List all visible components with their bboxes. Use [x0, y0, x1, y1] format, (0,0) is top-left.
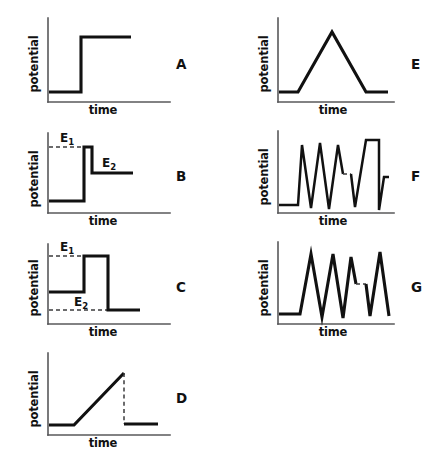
panel-D-xlabel: time: [89, 436, 118, 450]
panel-C-trace: [49, 256, 140, 310]
panel-G-trace-part1: [279, 254, 356, 318]
panel-letter-B: B: [176, 170, 186, 184]
panel-B-ylabel: potential: [27, 151, 41, 208]
panel-letter-F: F: [411, 170, 420, 184]
panel-E-ylabel: potential: [257, 36, 271, 93]
panel-D-ramp-trace: [49, 373, 124, 425]
panel-F-xlabel: time: [319, 214, 348, 228]
panel-C-e1-label: E1: [60, 240, 74, 256]
panel-E-trace: [279, 32, 388, 92]
waveform-figure: potential time A E1 E2 potential time B: [0, 0, 434, 455]
panel-letter-D: D: [176, 392, 187, 406]
panel-E-xlabel: time: [319, 103, 348, 117]
panel-D: potential time: [18, 347, 178, 447]
panel-G-trace-part2: [366, 252, 389, 316]
panel-F-ylabel: potential: [257, 149, 271, 206]
panel-B-trace: [49, 147, 133, 201]
panel-letter-A: A: [176, 58, 186, 72]
panel-G-xlabel: time: [319, 325, 348, 339]
panel-F-axes: [278, 131, 394, 213]
panel-A-xlabel: time: [89, 103, 118, 117]
panel-B-e1-label: E1: [60, 131, 74, 147]
panel-B-xlabel: time: [89, 214, 118, 228]
panel-B-e2-label: E2: [102, 156, 116, 172]
panel-C-e2-label: E2: [74, 295, 88, 311]
panel-C-xlabel: time: [89, 325, 118, 339]
panel-A-trace: [49, 37, 131, 92]
panel-C-ylabel: potential: [27, 260, 41, 317]
panel-G: potential time: [248, 236, 408, 336]
panel-A-axes: [48, 18, 170, 102]
panel-F: potential time: [248, 125, 408, 225]
panel-E-axes: [278, 18, 394, 102]
panel-D-ylabel: potential: [27, 371, 41, 428]
panel-F-trace-part1: [279, 143, 343, 209]
panel-A-ylabel: potential: [27, 36, 41, 93]
panel-F-trace-part2: [351, 140, 389, 210]
panel-C: E1 E2 potential time: [18, 236, 178, 336]
panel-letter-G: G: [411, 281, 422, 295]
panel-B: E1 E2 potential time: [18, 125, 178, 225]
panel-A: potential time: [18, 14, 178, 114]
panel-G-ylabel: potential: [257, 260, 271, 317]
panel-letter-E: E: [411, 58, 420, 72]
panel-E: potential time: [248, 14, 408, 114]
panel-letter-C: C: [176, 281, 186, 295]
